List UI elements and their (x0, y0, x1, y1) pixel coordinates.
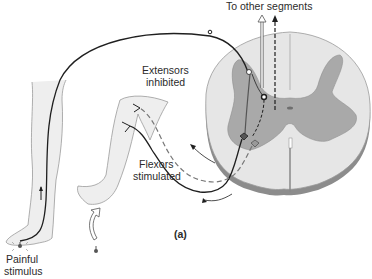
label-flexors: Flexors (139, 158, 173, 170)
reflex-diagram: To other segments Extensors inhibited Fl… (0, 0, 372, 279)
withdrawing-leg (77, 96, 168, 204)
spinal-cord-section (206, 32, 370, 195)
withdrawal-arrow (90, 208, 101, 253)
stimulated-leg (6, 80, 66, 245)
panel-label: (a) (174, 228, 187, 240)
label-inhibited: inhibited (146, 76, 185, 88)
label-extensors: Extensors (142, 64, 189, 76)
label-stimulus: stimulus (4, 265, 43, 277)
label-stimulated: stimulated (133, 170, 181, 182)
label-to-other-segments: To other segments (226, 0, 312, 12)
label-painful: Painful (6, 253, 38, 265)
